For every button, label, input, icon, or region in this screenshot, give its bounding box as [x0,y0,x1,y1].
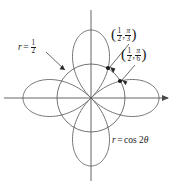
pi6-r-fraction: 12 [127,48,133,64]
point-dot-pi-over-6 [118,79,122,83]
pi3-theta-numerator: π [125,28,131,35]
pi6-r-numerator: 1 [127,48,133,55]
point-dot-pi-over-3 [106,66,110,70]
leader-point-pi-over-6 [122,65,135,80]
circle-eq-denominator: 2 [31,47,37,55]
rose-eq-theta: θ [144,135,149,145]
rose-equation-label: r=cos 2θ [112,136,149,146]
axis-group [4,10,168,181]
pi6-theta-numerator: π [135,48,141,55]
circle-equation-label: r=12 [18,40,37,56]
circle-eq-fraction: 12 [31,40,37,56]
point-label-pi-over-6: (12,π6) [121,48,147,64]
rose-eq-expression: cos 2 [124,135,144,145]
polar-rose-figure: r=12 (12,π3) (12,π6) r=cos 2θ [0,0,182,185]
pi6-theta-fraction: π6 [135,48,141,64]
leader-arrowhead-pi6 [122,80,127,85]
circle-eq-numerator: 1 [31,40,37,47]
rose-eq-equals: = [116,135,124,145]
point-label-pi-over-3: (12,π3) [111,28,137,44]
pi6-r-denominator: 2 [127,55,133,63]
polar-plot-canvas [0,0,182,185]
pi3-theta-denominator: 3 [125,35,131,43]
pi3-theta-fraction: π3 [125,28,131,44]
pi3-r-fraction: 12 [117,28,123,44]
pi3-r-numerator: 1 [117,28,123,35]
circle-eq-equals: = [22,42,30,52]
pi3-r-denominator: 2 [117,35,123,43]
pi6-theta-denominator: 6 [135,55,141,63]
